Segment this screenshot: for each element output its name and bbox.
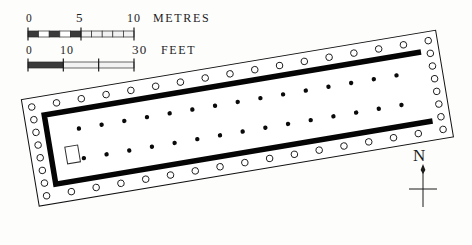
cult-statue-base [65,145,81,164]
metres-tick-10: 10 [127,11,141,26]
feet-tick-0: 0 [26,44,33,56]
scale-segment [99,62,134,68]
scale-segment [63,62,98,68]
scale-segment [60,31,71,37]
north-arrow-icon [395,155,455,215]
scale-segment [28,31,39,37]
scale-segment [39,31,50,37]
figure-canvas: 0 5 10 METRES 0 10 30 FEET N [0,0,472,245]
feet-tick-10: 10 [60,43,74,58]
feet-tick-30: 30 [132,42,147,58]
scale-segment [81,31,92,37]
metres-tick-0: 0 [26,12,33,24]
feet-unit-label: FEET [161,43,196,58]
compass-arrowhead-icon [421,164,426,174]
scale-segment [123,31,134,37]
scale-segment [49,31,60,37]
scale-segment [102,31,113,37]
scale-segment [28,62,63,68]
scale-segment [92,31,103,37]
scale-segment [113,31,124,37]
scale-bars: 0 5 10 METRES 0 10 30 FEET [0,0,240,80]
metres-tick-5: 5 [76,10,84,26]
scale-segment [70,31,81,37]
metres-unit-label: METRES [153,11,210,26]
